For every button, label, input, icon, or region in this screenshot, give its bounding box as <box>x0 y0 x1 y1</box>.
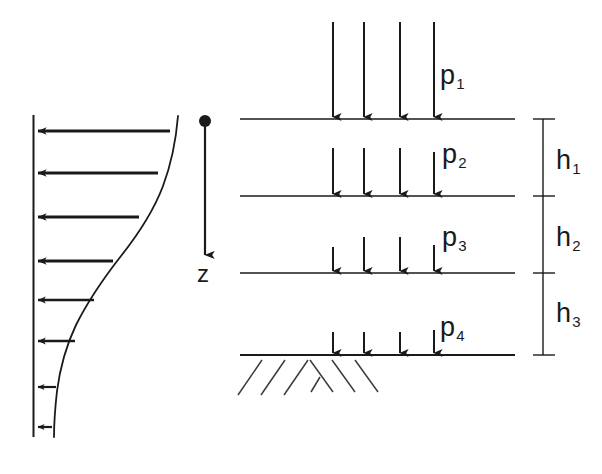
thickness-label-h3-base: h <box>556 298 571 328</box>
pressure-label-p3: p3 <box>442 224 466 251</box>
layer-boundary-lines <box>240 119 515 355</box>
thickness-label-h1: h1 <box>556 147 580 174</box>
hatch-mark <box>332 360 355 392</box>
z-axis-label: z <box>197 262 209 286</box>
pressure-arrows-p2 <box>333 148 434 194</box>
pressure-arrows-p1 <box>333 22 434 117</box>
thickness-label-h1-subscript: 1 <box>572 160 581 177</box>
pressure-label-p4-base: p <box>440 312 455 342</box>
velocity-profile-curve <box>54 116 178 437</box>
pressure-label-p2-subscript: 2 <box>458 154 467 171</box>
hatch-mark <box>284 360 308 395</box>
pressure-arrows-p3 <box>333 237 434 271</box>
ground-hatching-group <box>238 360 378 395</box>
pressure-label-p1: p1 <box>440 62 464 89</box>
pressure-label-p1-subscript: 1 <box>456 75 465 92</box>
thickness-label-h2-base: h <box>556 222 571 252</box>
pressure-label-p2-base: p <box>442 139 457 169</box>
thickness-label-h3-subscript: 3 <box>572 313 581 330</box>
pressure-label-p3-subscript: 3 <box>458 237 467 254</box>
hatch-mark <box>238 360 262 395</box>
diagram-canvas <box>0 0 602 474</box>
thickness-label-h1-base: h <box>556 145 571 175</box>
pressure-label-p4: p4 <box>440 314 464 341</box>
velocity-profile-group <box>34 115 179 437</box>
hatch-mark <box>261 360 285 395</box>
figure-root: z p1 p2 p3 p4 h1 h2 h3 <box>0 0 602 474</box>
pressure-label-p3-base: p <box>442 222 457 252</box>
pressure-label-p2: p2 <box>442 141 466 168</box>
z-axis-group <box>199 115 211 255</box>
pressure-arrows-p4 <box>333 330 434 353</box>
z-axis-label-text: z <box>197 260 209 287</box>
thickness-label-h2: h2 <box>556 224 580 251</box>
pressure-label-p1-base: p <box>440 60 455 90</box>
hatch-mark <box>311 377 320 392</box>
pressure-label-p4-subscript: 4 <box>456 327 465 344</box>
thickness-label-h3: h3 <box>556 300 580 327</box>
thickness-label-h2-subscript: 2 <box>572 237 581 254</box>
dimension-line-group <box>533 119 555 355</box>
hatch-mark <box>355 360 378 392</box>
